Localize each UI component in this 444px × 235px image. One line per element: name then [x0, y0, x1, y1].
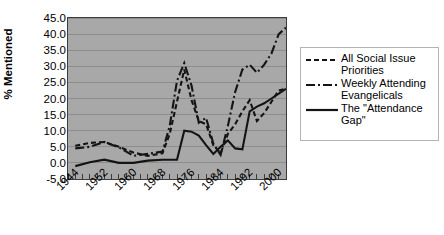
plot-area: [67, 17, 287, 180]
legend-line-swatch: [305, 78, 339, 91]
series-line-2: [75, 28, 286, 156]
y-axis-tick-label: 40.0: [26, 29, 66, 39]
legend-item-label: The "Attendance Gap": [341, 103, 435, 126]
x-axis-tick-labels: 19441952196019681976198419922000: [0, 182, 300, 235]
y-axis-tick-label: 45.0: [26, 13, 66, 23]
y-axis-tick-label: 10.0: [26, 126, 66, 136]
legend-item-label: Weekly Attending Evangelicals: [341, 78, 435, 101]
series-line-3: [75, 89, 286, 166]
chart-container: % Mentioned 45.040.035.030.025.020.015.0…: [0, 0, 444, 235]
legend-item: The "Attendance Gap": [305, 103, 435, 126]
y-axis-tick-label: 30.0: [26, 61, 66, 71]
legend-item: Weekly Attending Evangelicals: [305, 78, 435, 101]
legend-line-swatch: [305, 53, 339, 66]
y-axis-tick-label: 15.0: [26, 110, 66, 120]
y-axis-tick-label: 5.0: [26, 142, 66, 152]
chart-legend: All Social Issue PrioritiesWeekly Attend…: [300, 47, 439, 141]
legend-item-label: All Social Issue Priorities: [341, 53, 435, 76]
y-axis-tick-label: 35.0: [26, 45, 66, 55]
legend-line-swatch: [305, 103, 339, 116]
y-axis-tick-label: 0.0: [26, 158, 66, 168]
y-axis-tick-label: 20.0: [26, 94, 66, 104]
legend-item: All Social Issue Priorities: [305, 53, 435, 76]
y-axis-title: % Mentioned: [2, 16, 18, 112]
y-axis-tick-label: 25.0: [26, 77, 66, 87]
plot-lines: [68, 18, 286, 179]
